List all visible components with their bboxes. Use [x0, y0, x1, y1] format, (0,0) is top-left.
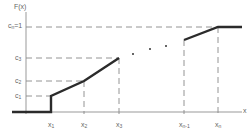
- ellipsis-dots: [132, 45, 167, 55]
- y-label-c2: c2: [15, 77, 21, 85]
- label-sub: 3: [19, 56, 22, 62]
- label-suffix: =1: [14, 22, 22, 29]
- label-sub: 1: [19, 94, 22, 100]
- label-sub: 3: [120, 123, 123, 129]
- diagram-canvas: [0, 0, 251, 136]
- y-label-c1: c1: [15, 92, 21, 100]
- y-axis-title: F(x): [14, 3, 26, 10]
- x-label-xn: xn: [215, 121, 221, 129]
- cdf-diagram: F(x) cn=1 c3 c2 c1 x1 x2 x3 xn-1 xn x: [0, 0, 251, 136]
- y-label-cn: cn=1: [8, 22, 22, 30]
- label-sub: n: [219, 123, 222, 129]
- y-label-c3: c3: [15, 54, 21, 62]
- x-axis-title: x: [243, 107, 247, 114]
- label-sub: n-1: [183, 123, 190, 129]
- x-label-xn-1: xn-1: [179, 121, 190, 129]
- x-label-x3: x3: [116, 121, 122, 129]
- label-sub: 2: [85, 123, 88, 129]
- x-label-x2: x2: [81, 121, 87, 129]
- x-label-x1: x1: [48, 121, 54, 129]
- label-sub: 2: [19, 79, 22, 85]
- cdf-curve: [12, 27, 242, 112]
- vertical-guides: [84, 27, 218, 114]
- label-sub: 1: [52, 123, 55, 129]
